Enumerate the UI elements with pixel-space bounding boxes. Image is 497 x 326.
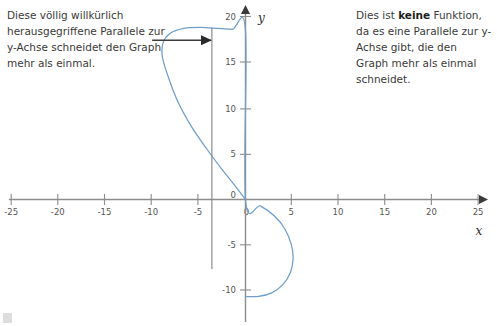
y-axis: -10 -5 0 5 10 15 20 y	[222, 11, 265, 322]
x-tick-label: -10	[144, 207, 158, 217]
x-tick-label: -20	[51, 207, 65, 217]
y-tick-label: 15	[225, 57, 236, 67]
x-tick-label: -5	[194, 207, 202, 217]
x-tick-label: 10	[333, 207, 344, 217]
y-tick-label: -5	[228, 240, 236, 250]
x-tick-label: 5	[289, 207, 294, 217]
coordinate-plot: -25 -20 -15 -10 -5 0 5 10 15 20 25 x	[0, 0, 497, 326]
y-tick-label: -10	[222, 285, 236, 295]
x-tick-label: -15	[98, 207, 112, 217]
x-tick-label: 25	[473, 207, 484, 217]
x-tick-label: 20	[426, 207, 437, 217]
x-tick-label: -25	[4, 207, 18, 217]
x-axis-label: x	[476, 224, 483, 238]
y-axis-label: y	[257, 11, 265, 25]
figure-canvas: Diese völlig willkürlich herausgegriffen…	[0, 0, 497, 326]
corner-artifact	[3, 313, 12, 323]
y-axis-tick-labels: -10 -5 0 5 10 15 20	[222, 12, 236, 295]
y-tick-label: 20	[225, 12, 236, 22]
x-axis: -25 -20 -15 -10 -5 0 5 10 15 20 25 x	[4, 194, 483, 238]
y-tick-label: 10	[225, 104, 236, 114]
x-tick-label: 15	[379, 207, 390, 217]
y-tick-label: 5	[231, 149, 236, 159]
x-axis-tick-labels: -25 -20 -15 -10 -5 0 5 10 15 20 25	[4, 207, 483, 217]
y-tick-label-origin: 0	[231, 190, 236, 200]
